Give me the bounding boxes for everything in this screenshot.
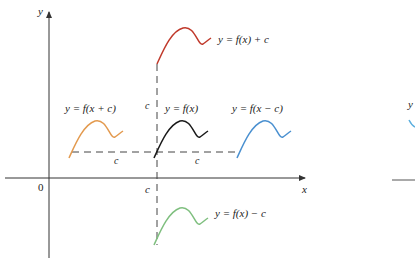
origin-label: 0 — [38, 182, 44, 193]
curve-shift-down — [154, 208, 208, 245]
curve-shift-right — [237, 121, 291, 158]
label-curve-left: y = f(x + c) — [65, 103, 116, 114]
second-figure-curve — [409, 120, 415, 127]
y-axis-label: y — [38, 6, 43, 17]
second-figure-y-label: y — [408, 99, 413, 110]
label-curve-base: y = f(x) — [165, 103, 198, 114]
label-curve-down: y = f(x) − c — [215, 208, 266, 219]
label-curve-right: y = f(x − c) — [232, 103, 283, 114]
label-curve-up: y = f(x) + c — [218, 34, 269, 45]
curve-shift-up — [157, 28, 211, 64]
function-shift-diagram — [0, 0, 415, 262]
x-tick-label-c: c — [145, 184, 150, 195]
dimension-label-vertical-up: c — [145, 101, 149, 111]
x-axis-label: x — [302, 184, 307, 195]
dimension-label-horizontal-left: c — [114, 156, 118, 166]
dimension-label-horizontal-right: c — [195, 156, 199, 166]
